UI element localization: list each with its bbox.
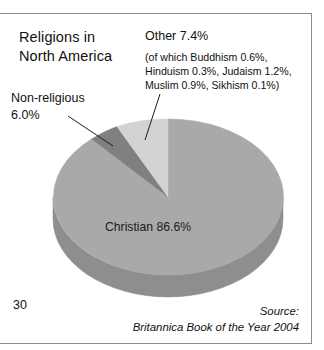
- pie-top-face-group: [53, 119, 283, 275]
- leader-line-other: [145, 94, 160, 140]
- page-number: 30: [13, 298, 27, 312]
- other-heading: Other 7.4%: [145, 28, 297, 44]
- source-line-2: Britannica Book of the Year 2004: [133, 319, 299, 335]
- title-line-1: Religions in: [19, 28, 159, 47]
- source-line-1: Source:: [133, 303, 299, 319]
- pie-slice-other: [117, 119, 168, 197]
- other-annotation: Other 7.4% (of which Buddhism 0.6%, Hind…: [145, 28, 297, 92]
- figure-panel: Religions in North America Other 7.4% (o…: [0, 13, 312, 344]
- page-title: Religions in North America: [19, 28, 159, 66]
- pie-3d-side-group: [53, 197, 283, 297]
- source-note: Source: Britannica Book of the Year 2004: [133, 303, 299, 335]
- christian-data-label: Christian 86.6%: [105, 220, 191, 234]
- pie-side-christian: [53, 197, 283, 297]
- title-line-2: North America: [19, 47, 159, 66]
- nonreligious-label: Non-religious 6.0%: [11, 90, 85, 124]
- pie-top-rim: [53, 119, 283, 275]
- other-detail: (of which Buddhism 0.6%, Hinduism 0.3%, …: [145, 50, 297, 92]
- pie-slice-christian: [53, 119, 283, 275]
- pie-slice-nonreligious: [92, 126, 168, 197]
- other-detail-line-3: Muslim 0.9%, Sikhism 0.1%): [145, 78, 297, 92]
- other-detail-line-1: (of which Buddhism 0.6%,: [145, 50, 297, 64]
- nonreligious-label-line-2: 6.0%: [11, 107, 85, 124]
- nonreligious-label-line-1: Non-religious: [11, 90, 85, 107]
- other-detail-line-2: Hinduism 0.3%, Judaism 1.2%,: [145, 64, 297, 78]
